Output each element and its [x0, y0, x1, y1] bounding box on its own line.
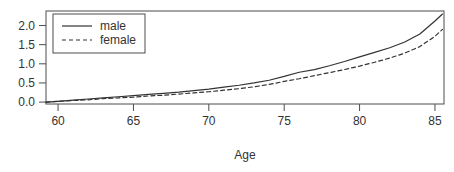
y-tick-label: 0.0	[18, 95, 35, 109]
y-tick-label: 1.5	[18, 38, 35, 52]
x-tick-label: 85	[428, 114, 442, 128]
x-tick-label: 80	[353, 114, 367, 128]
chart-legend: malefemale	[53, 14, 145, 53]
x-axis-title: Age	[234, 148, 256, 162]
legend-label-female: female	[100, 33, 136, 47]
chart-figure: 606570758085 0.00.51.01.52.0 malefemale …	[0, 0, 454, 172]
line-chart: 606570758085 0.00.51.01.52.0 malefemale …	[0, 0, 454, 172]
x-tick-label: 60	[51, 114, 65, 128]
x-tick-label: 70	[202, 114, 216, 128]
x-tick-label: 75	[278, 114, 292, 128]
y-tick-label: 0.5	[18, 76, 35, 90]
y-tick-label: 2.0	[18, 19, 35, 33]
x-tick-label: 65	[127, 114, 141, 128]
y-tick-label: 1.0	[18, 57, 35, 71]
legend-label-male: male	[100, 19, 126, 33]
